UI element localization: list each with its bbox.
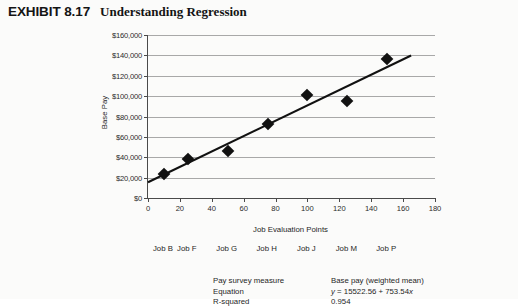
regression-stats-block: Pay survey measureBase pay (weighted mea… bbox=[213, 276, 424, 308]
exhibit-title: Understanding Regression bbox=[100, 4, 247, 20]
y-axis-tick-label: $60,000 bbox=[116, 132, 142, 141]
x-tick-mark bbox=[339, 198, 340, 202]
x-axis-tick-label: 0 bbox=[146, 204, 150, 213]
y-axis-tick-label: $20,000 bbox=[116, 173, 142, 182]
y-axis-tick-label: $140,000 bbox=[112, 51, 142, 60]
x-axis-tick-label: 160 bbox=[397, 204, 410, 213]
x-tick-mark bbox=[403, 198, 404, 202]
job-label: Job J bbox=[297, 244, 316, 253]
x-axis-tick-label: 80 bbox=[271, 204, 279, 213]
stats-table: Pay survey measureBase pay (weighted mea… bbox=[213, 276, 424, 308]
y-axis-tick-label: $120,000 bbox=[112, 71, 142, 80]
stats-value: y = 15522.56 + 753.54x bbox=[331, 287, 424, 298]
stats-key: Pay survey measure bbox=[213, 276, 331, 287]
stats-row: R-squared0.954 bbox=[213, 297, 424, 308]
job-label: Job G bbox=[216, 244, 237, 253]
plot-area: $0$20,000$40,000$60,000$80,000$100,000$1… bbox=[147, 35, 435, 199]
x-axis-tick-label: 140 bbox=[365, 204, 378, 213]
y-axis-tick-label: $160,000 bbox=[112, 31, 142, 40]
x-tick-mark bbox=[244, 198, 245, 202]
y-axis-tick-label: $100,000 bbox=[112, 92, 142, 101]
x-axis-tick-label: 180 bbox=[429, 204, 442, 213]
x-axis-tick-label: 40 bbox=[208, 204, 216, 213]
x-tick-mark bbox=[212, 198, 213, 202]
stats-row: Equationy = 15522.56 + 753.54x bbox=[213, 287, 424, 298]
stats-value: Base pay (weighted mean) bbox=[331, 276, 424, 287]
x-tick-mark bbox=[371, 198, 372, 202]
x-axis-tick-label: 60 bbox=[239, 204, 247, 213]
y-axis-tick-label: $0 bbox=[134, 194, 142, 203]
job-label: Job F bbox=[177, 244, 197, 253]
y-axis-tick-label: $80,000 bbox=[116, 112, 142, 121]
x-tick-mark bbox=[276, 198, 277, 202]
stats-key: Equation bbox=[213, 287, 331, 298]
y-axis-title: Base Pay bbox=[100, 96, 109, 129]
x-axis-title: Job Evaluation Points bbox=[147, 225, 434, 234]
exhibit-number-label: EXHIBIT 8.17 bbox=[8, 4, 90, 19]
x-tick-mark bbox=[180, 198, 181, 202]
job-label: Job P bbox=[376, 244, 396, 253]
stats-row: Pay survey measureBase pay (weighted mea… bbox=[213, 276, 424, 287]
stats-value: 0.954 bbox=[331, 297, 424, 308]
x-axis-tick-label: 120 bbox=[333, 204, 346, 213]
x-axis-tick-label: 100 bbox=[301, 204, 314, 213]
regression-chart: Base Pay $0$20,000$40,000$60,000$80,000$… bbox=[0, 22, 518, 299]
exhibit-header: EXHIBIT 8.17 Understanding Regression bbox=[8, 4, 247, 20]
job-label: Job M bbox=[336, 244, 357, 253]
x-tick-mark bbox=[148, 198, 149, 202]
x-tick-mark bbox=[307, 198, 308, 202]
job-label: Job H bbox=[256, 244, 276, 253]
job-labels-row: Job BJob FJob GJob HJob JJob MJob P bbox=[147, 244, 434, 256]
x-tick-mark bbox=[435, 198, 436, 202]
job-label: Job B bbox=[153, 244, 173, 253]
x-axis-tick-label: 20 bbox=[176, 204, 184, 213]
y-axis-tick-label: $40,000 bbox=[116, 153, 142, 162]
stats-key: R-squared bbox=[213, 297, 331, 308]
